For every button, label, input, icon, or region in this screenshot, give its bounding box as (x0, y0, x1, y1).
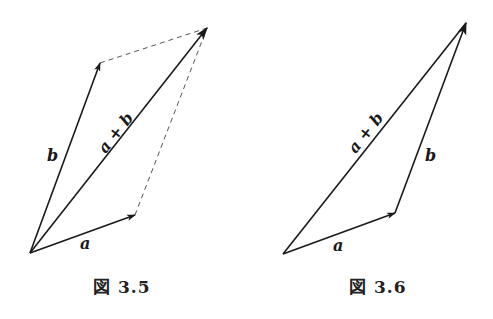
vector-addition-diagram (0, 0, 493, 319)
label-a: a (80, 236, 90, 252)
vector-sum-arrow (283, 23, 466, 254)
label-b: b (47, 148, 58, 164)
label-b: b (425, 148, 436, 164)
figure-caption: 図 3.5 (93, 279, 151, 296)
vector-b-arrow (395, 23, 466, 213)
figure-caption: 図 3.6 (349, 279, 407, 296)
vector-b-arrow (30, 63, 100, 253)
label-a: a (333, 238, 343, 254)
dashed-edge-right (135, 28, 207, 215)
dashed-edge-top (100, 28, 207, 63)
figure-3-6 (283, 23, 466, 254)
